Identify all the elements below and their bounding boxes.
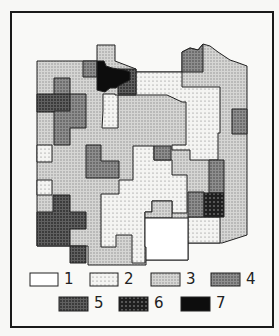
legend-label-5: 5 — [94, 296, 104, 311]
legend-swatch-5 — [59, 297, 88, 311]
region-class-5-northwest[interactable] — [37, 94, 70, 112]
region-class-4-east[interactable] — [232, 109, 247, 134]
legend-swatch-6 — [119, 297, 148, 311]
legend-label-1: 1 — [64, 272, 74, 287]
region-class-6[interactable] — [204, 193, 224, 217]
legend-label-6: 6 — [154, 296, 164, 311]
legend-swatch-1 — [30, 273, 58, 286]
choropleth-map — [0, 0, 279, 336]
legend-label-2: 2 — [124, 272, 134, 287]
region-class-2-southeast[interactable] — [188, 217, 220, 243]
legend — [30, 273, 240, 311]
map-regions — [37, 44, 247, 265]
legend-swatch-3 — [151, 273, 180, 286]
legend-label-4: 4 — [246, 272, 256, 287]
legend-swatch-2 — [90, 273, 118, 286]
region-class-5-south[interactable] — [70, 246, 86, 263]
legend-label-7: 7 — [216, 296, 226, 311]
region-class-2-west-1[interactable] — [37, 145, 52, 162]
region-class-4-center[interactable] — [154, 146, 171, 160]
legend-swatch-7 — [181, 297, 210, 311]
region-class-4-north-east-top[interactable] — [182, 44, 203, 72]
region-class-4-southeast-b[interactable] — [188, 192, 204, 217]
legend-label-3: 3 — [186, 272, 196, 287]
region-class-4-southeast-a[interactable] — [209, 160, 224, 193]
region-class-1[interactable] — [145, 218, 188, 260]
region-class-4-north-west-top[interactable] — [83, 61, 97, 77]
legend-swatch-4 — [211, 273, 240, 286]
region-class-2-west-2[interactable] — [37, 180, 52, 195]
